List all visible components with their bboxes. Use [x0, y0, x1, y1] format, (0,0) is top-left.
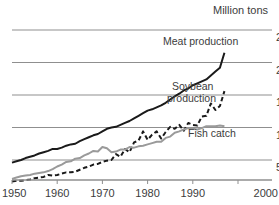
x-axis-tick-labels: 195019601970198019902000 — [2, 187, 278, 199]
x-tick-label-1990: 1990 — [181, 187, 205, 199]
y-tick-label-150: 150 — [276, 96, 279, 108]
y-tick-label-200: 200 — [276, 64, 279, 76]
series-line-meat-production — [12, 53, 224, 163]
y-axis-tick-labels: 50100150200250 — [276, 31, 279, 173]
series-lines — [12, 53, 224, 182]
y-tick-label-100: 100 — [276, 129, 279, 141]
gridlines — [12, 30, 272, 160]
annotation-fish-catch: Fish catch — [188, 127, 236, 139]
x-tick-label-2000: 2000 — [254, 187, 278, 199]
x-axis — [12, 180, 272, 184]
x-tick-label-1960: 1960 — [45, 187, 69, 199]
x-tick-label-1970: 1970 — [90, 187, 114, 199]
line-chart: 50100150200250 195019601970198019902000 … — [0, 0, 279, 205]
chart-container: 50100150200250 195019601970198019902000 … — [0, 0, 279, 205]
annotation-production: production — [167, 92, 216, 104]
x-tick-label-1980: 1980 — [135, 187, 159, 199]
y-tick-label-50: 50 — [276, 161, 279, 173]
annotation-meat-production: Meat production — [163, 35, 238, 47]
annotation-million-tons: Million tons — [213, 4, 269, 16]
x-tick-label-1950: 1950 — [2, 187, 26, 199]
annotation-soybean: Soybean — [172, 80, 214, 92]
y-tick-label-250: 250 — [276, 31, 279, 43]
